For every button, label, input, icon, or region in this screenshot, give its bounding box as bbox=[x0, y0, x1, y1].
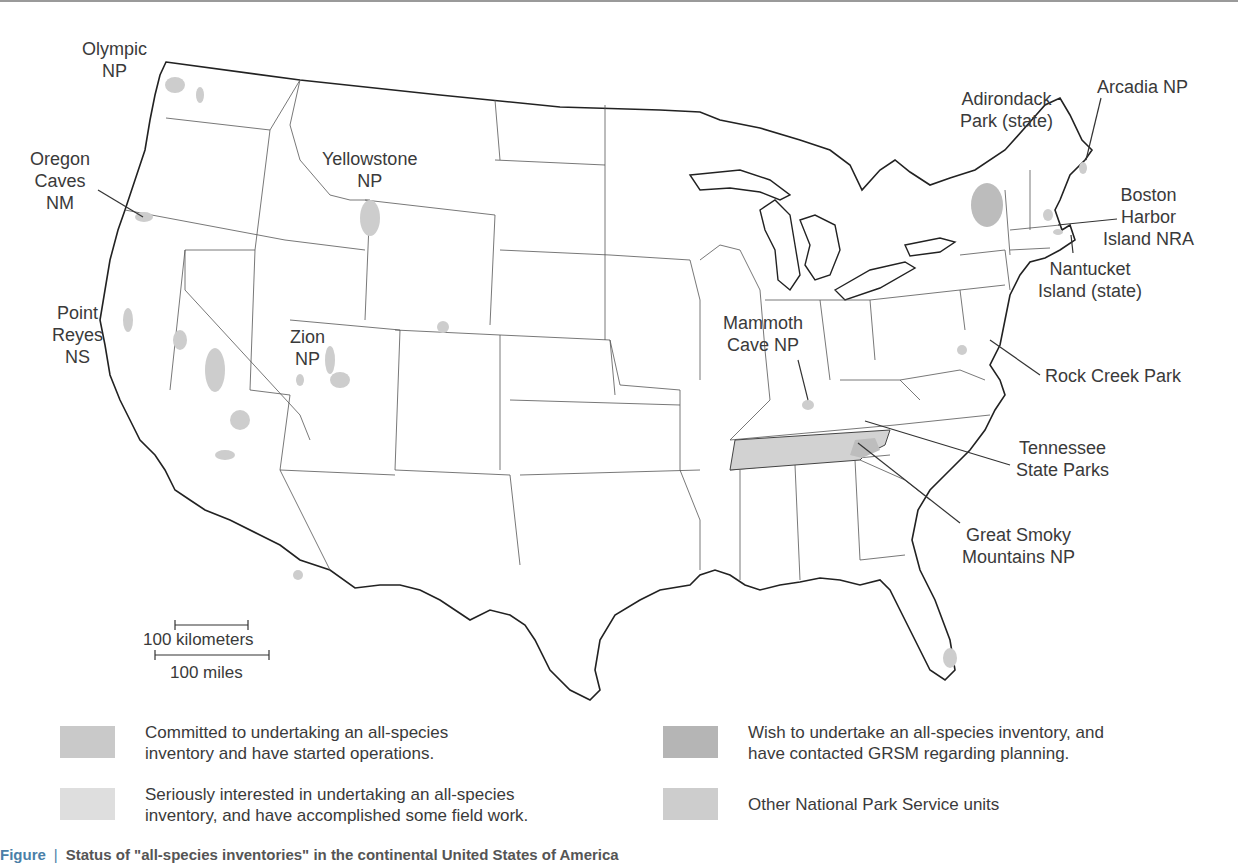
caption-text: Status of "all-species inventories" in t… bbox=[66, 846, 619, 863]
figure-caption: Figure|Status of "all-species inventorie… bbox=[0, 846, 619, 863]
legend-swatch-seriously-interested bbox=[60, 788, 115, 820]
scale-miles-label: 100 miles bbox=[170, 663, 243, 683]
label-arcadia: Arcadia NP bbox=[1097, 76, 1188, 98]
adirondack-fill bbox=[971, 183, 1003, 227]
scale-km-label: 100 kilometers bbox=[143, 630, 254, 650]
label-olympic: Olympic NP bbox=[82, 38, 147, 82]
legend-text-committed: Committed to undertaking an all-species … bbox=[145, 722, 448, 764]
legend-swatch-wish bbox=[663, 726, 718, 758]
legend-seriously-interested: Seriously interested in undertaking an a… bbox=[60, 784, 528, 826]
caption-separator: | bbox=[54, 846, 58, 863]
label-yellowstone: Yellowstone NP bbox=[322, 148, 417, 192]
label-nantucket: Nantucket Island (state) bbox=[1038, 258, 1142, 302]
us-outline bbox=[100, 62, 1092, 700]
legend-text-wish: Wish to undertake an all-species invento… bbox=[748, 722, 1104, 764]
legend-swatch-other-nps bbox=[663, 788, 718, 820]
legend-text-other-nps: Other National Park Service units bbox=[748, 784, 999, 826]
label-oregon-caves: Oregon Caves NM bbox=[30, 148, 90, 214]
label-zion: Zion NP bbox=[290, 326, 325, 370]
label-mammoth-cave: Mammoth Cave NP bbox=[723, 312, 803, 356]
legend-other-nps: Other National Park Service units bbox=[663, 784, 999, 826]
legend-committed: Committed to undertaking an all-species … bbox=[60, 722, 448, 764]
label-tennessee: Tennessee State Parks bbox=[1016, 437, 1109, 481]
label-adirondack: Adirondack Park (state) bbox=[960, 88, 1053, 132]
legend-text-seriously-interested: Seriously interested in undertaking an a… bbox=[145, 784, 528, 826]
caption-figure-label: Figure bbox=[0, 846, 46, 863]
label-rock-creek: Rock Creek Park bbox=[1045, 365, 1181, 387]
label-boston-harbor: Boston Harbor Island NRA bbox=[1103, 184, 1194, 250]
legend-swatch-committed bbox=[60, 726, 115, 758]
legend-wish: Wish to undertake an all-species invento… bbox=[663, 722, 1104, 764]
label-great-smoky: Great Smoky Mountains NP bbox=[962, 524, 1075, 568]
label-point-reyes: Point Reyes NS bbox=[52, 302, 103, 368]
